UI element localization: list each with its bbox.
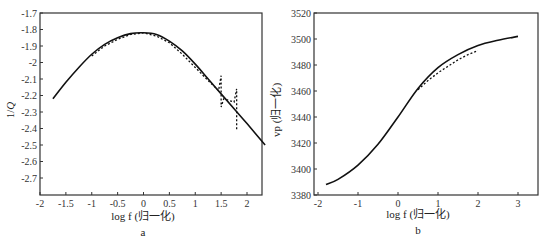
y-tick-label: -2.2 [21,90,37,101]
plot-frame-a [40,13,262,195]
figure: -1.7-1.8-1.9-2-2.1-2.2-2.3-2.4-2.5-2.6-2… [0,0,546,241]
series-b [326,36,518,184]
y-tick-label: -2.5 [21,140,37,151]
y-axis-label-a: 1/Q [4,102,16,119]
x-tick-label: 0 [141,198,146,209]
y-tick-label: -1.9 [21,41,37,52]
series-a [53,33,265,145]
y-axis-b: 33803400342034403460348035003520 [291,8,317,201]
x-tick-label: 3 [516,198,521,209]
series-line-solid [53,33,265,145]
x-tick-label: -2 [36,198,44,209]
y-axis-label-b: vp (归一化) [269,83,283,137]
x-tick-label: -0.5 [110,198,126,209]
series-line-dashed [92,33,237,130]
panel-label-a: a [141,226,146,238]
chart-panel-a: -1.7-1.8-1.9-2-2.1-2.2-2.3-2.4-2.5-2.6-2… [4,8,265,239]
x-tick-label: -1.5 [58,198,74,209]
x-tick-label: 1.5 [215,198,228,209]
y-tick-label: 3460 [291,86,311,97]
y-tick-label: -2.3 [21,107,37,118]
y-tick-label: -2.7 [21,173,37,184]
x-axis-label-a: log f (归一化) [111,209,175,223]
y-tick-label: 3380 [291,190,311,201]
series-line-solid [326,36,518,184]
y-tick-label: 3420 [291,138,311,149]
x-tick-label: 1 [193,198,198,209]
x-tick-label: 2 [245,198,250,209]
y-tick-label: 3500 [291,34,311,45]
y-tick-label: -2.1 [21,74,37,85]
y-tick-label: 3520 [291,8,311,19]
y-tick-label: 3480 [291,60,311,71]
x-axis-label-b: log f (归一化) [386,207,450,221]
y-tick-label: -1.8 [21,24,37,35]
plot-frame-b [314,13,538,195]
x-tick-label: -1 [354,198,362,209]
y-tick-label: -2 [29,57,37,68]
x-tick-label: 0.5 [163,198,176,209]
x-tick-label: 2 [476,198,481,209]
chart-panel-b: 33803400342034403460348035003520 -2-1012… [269,8,538,237]
y-tick-label: -2.6 [21,156,37,167]
y-tick-label: -2.4 [21,123,37,134]
x-tick-label: -1 [88,198,96,209]
x-tick-label: -2 [314,198,322,209]
y-tick-label: 3440 [291,112,311,123]
y-tick-label: -1.7 [21,8,37,19]
series-line-dashed [418,51,478,90]
panel-label-b: b [415,224,421,236]
y-tick-label: 3400 [291,164,311,175]
